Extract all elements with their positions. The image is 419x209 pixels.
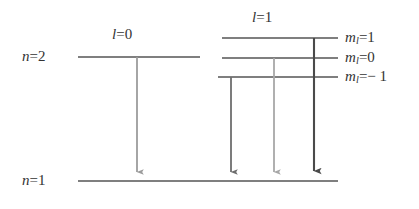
magnetic-quantum-label-plus1: ml=1 xyxy=(345,30,375,46)
energy-level-diagram: n=2 n=1 l=0 l=1 ml=1 ml=0 ml=− 1 xyxy=(0,0,419,209)
magnetic-quantum-label-minus1: ml=− 1 xyxy=(345,69,387,85)
orbital-label-l0: l=0 xyxy=(112,27,132,42)
level-lines-group xyxy=(78,38,338,181)
label-ml-plus1-value: 1 xyxy=(367,29,375,45)
label-n1-operator: = xyxy=(30,172,38,188)
level-label-n2: n=2 xyxy=(22,49,45,64)
label-ml-minus1-symbol: m xyxy=(345,68,356,84)
label-ml-minus1-value: − 1 xyxy=(367,68,387,84)
label-n2-operator: = xyxy=(30,48,38,64)
label-ml-zero-symbol: m xyxy=(345,49,356,65)
label-n2-symbol: n xyxy=(22,48,30,64)
label-ml-zero-value: 0 xyxy=(367,49,375,65)
label-n2-value: 2 xyxy=(38,48,46,64)
label-n1-value: 1 xyxy=(38,172,46,188)
level-label-n1: n=1 xyxy=(22,173,45,188)
label-n1-symbol: n xyxy=(22,172,30,188)
label-l1-operator: = xyxy=(256,9,264,25)
label-ml-plus1-symbol: m xyxy=(345,29,356,45)
label-l0-operator: = xyxy=(116,26,124,42)
orbital-label-l1: l=1 xyxy=(252,10,272,25)
magnetic-quantum-label-zero: ml=0 xyxy=(345,50,375,66)
label-l1-value: 1 xyxy=(265,9,273,25)
label-l0-value: 0 xyxy=(125,26,133,42)
